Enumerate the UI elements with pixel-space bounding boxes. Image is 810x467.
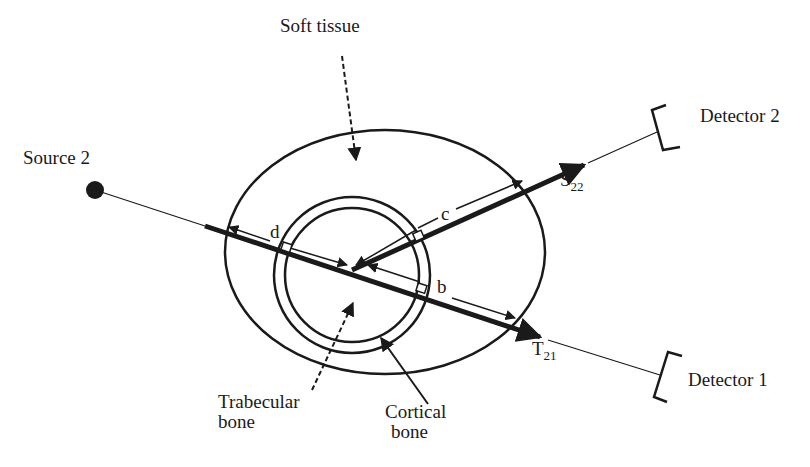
detector1-beam-line bbox=[548, 340, 660, 375]
path-c-arrow-mid bbox=[418, 218, 438, 228]
path-c-label: c bbox=[441, 204, 449, 224]
cortical-cross-mark-left bbox=[281, 242, 292, 252]
detector1-label: Detector 1 bbox=[688, 370, 768, 390]
path-b-label: b bbox=[437, 277, 447, 297]
soft-tissue-label: Soft tissue bbox=[280, 16, 360, 36]
scatter-label-main: S bbox=[560, 169, 571, 190]
trabecular-label-line1: Trabecular bbox=[218, 392, 300, 412]
detector2-bracket bbox=[652, 105, 680, 150]
cortical-cross-mark-right bbox=[416, 283, 427, 293]
trabecular-label: Trabecular bone bbox=[218, 392, 300, 432]
transmit-label-main: T bbox=[532, 338, 544, 359]
detector2-beam-line bbox=[588, 132, 657, 163]
source-beam-line bbox=[95, 190, 205, 226]
trabecular-label-line2: bone bbox=[218, 412, 300, 432]
source-label: Source 2 bbox=[23, 148, 90, 168]
scatter-label-sub: 22 bbox=[571, 179, 584, 194]
transmit-label-sub: 21 bbox=[544, 348, 557, 363]
detector1-bracket bbox=[654, 352, 682, 402]
soft-tissue-ellipse bbox=[225, 130, 545, 374]
soft-tissue-pointer bbox=[342, 56, 356, 160]
cortical-label-line2: bone bbox=[385, 422, 446, 442]
cortical-label-line1: Cortical bbox=[385, 402, 446, 422]
path-d-label: d bbox=[270, 222, 280, 242]
transmit-label: T21 bbox=[532, 339, 557, 363]
scatter-label: S22 bbox=[560, 170, 584, 194]
path-b-arrow-outer bbox=[452, 298, 515, 318]
xray-geometry-diagram bbox=[0, 0, 810, 467]
primary-beam bbox=[205, 226, 540, 337]
cortical-label: Cortical bone bbox=[385, 402, 446, 442]
path-b-arrow-inner bbox=[368, 265, 420, 282]
detector2-label: Detector 2 bbox=[700, 106, 780, 126]
